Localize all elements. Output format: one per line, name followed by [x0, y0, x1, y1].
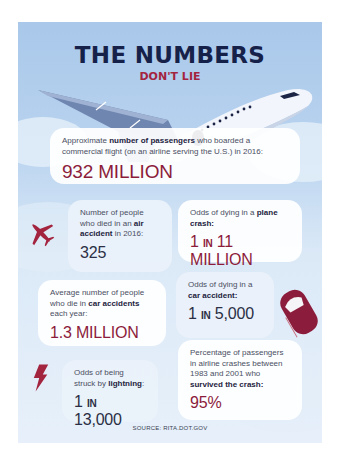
stat-value: 1 IN 5,000	[188, 305, 262, 323]
page-title: THE NUMBERS	[18, 42, 322, 68]
stat-value: 325	[80, 244, 160, 262]
stat-value: 1 IN 11 MILLION	[190, 233, 290, 269]
stat-label: Percentage of passengers in airline cras…	[190, 348, 290, 390]
stat-card-plane-odds: Odds of dying in a plane crash: 1 IN 11 …	[178, 200, 302, 262]
stat-value: 932 MILLION	[62, 161, 288, 183]
stat-card-survival: Percentage of passengers in airline cras…	[178, 340, 302, 420]
car-icon	[280, 284, 318, 340]
source-citation: SOURCE: RITA.DOT.GOV	[18, 425, 322, 431]
stat-card-car-deaths: Average number of people who die in car …	[38, 280, 166, 346]
stat-card-air-deaths: Number of people who died in an air acci…	[68, 200, 172, 272]
stat-value: 95%	[190, 394, 290, 412]
infographic-poster: THE NUMBERS DON'T LIE Approximate number…	[18, 22, 322, 443]
stat-card-passengers: Approximate number of passengers who boa…	[50, 128, 300, 184]
page-subtitle: DON'T LIE	[18, 70, 322, 83]
stat-card-lightning-odds: Odds of being struck by lightning: 1 IN …	[62, 360, 158, 422]
stat-label: Number of people who died in an air acci…	[80, 208, 160, 240]
plane-icon	[26, 218, 56, 248]
stat-card-car-odds: Odds of dying in a car accident: 1 IN 5,…	[176, 272, 274, 338]
stat-label: Average number of people who die in car …	[50, 288, 154, 320]
stat-label: Odds of dying in a plane crash:	[190, 208, 290, 229]
stat-label: Odds of being struck by lightning:	[74, 368, 146, 389]
stat-label: Odds of dying in a car accident:	[188, 280, 262, 301]
stat-value: 1 IN 13,000	[74, 393, 146, 429]
stat-value: 1.3 MILLION	[50, 324, 154, 342]
stat-label: Approximate number of passengers who boa…	[62, 136, 288, 157]
lightning-icon	[32, 364, 50, 392]
